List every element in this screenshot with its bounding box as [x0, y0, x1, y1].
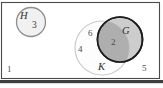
set-g-label: G: [122, 26, 130, 37]
region-count-k-lower: 4: [78, 45, 83, 54]
set-h-count: 3: [32, 21, 37, 31]
region-count-outside-right: 5: [142, 64, 147, 73]
set-k-label: K: [98, 62, 105, 73]
region-count-outside-left: 1: [7, 65, 12, 74]
region-count-intersection: 2: [111, 38, 116, 47]
region-count-k-upper: 6: [88, 29, 93, 38]
set-h-label: H: [20, 11, 28, 22]
venn-diagram: H 3 G K 6 2 4 1 5: [0, 0, 163, 88]
figure-bottom-rule: [0, 80, 163, 83]
